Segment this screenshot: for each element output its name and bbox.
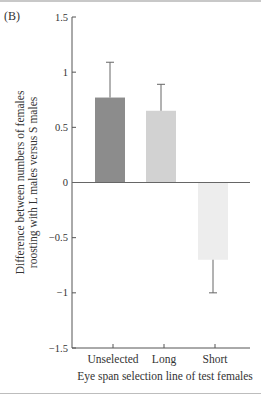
x-axis-label: Eye span selection line of test females [77,370,253,383]
bar-unselected [95,98,125,183]
y-axis: 1.510.50−0.5−1−1.5 [49,12,76,354]
x-tick-label: Unselected [87,353,138,365]
y-axis-label-line-2: roosting with L males versus S males [27,96,40,268]
y-tick-label: 1 [63,67,68,78]
y-axis-label-line-1: Difference between numbers of females [14,90,26,274]
panel-label: (B) [4,9,20,23]
y-tick-label: 0.5 [55,122,68,133]
bar-long [146,111,176,183]
y-tick-label: −1 [57,287,68,298]
y-tick-label: 1.5 [55,12,68,23]
y-tick-label: −1.5 [49,343,68,354]
bar-chart: (B) Difference between numbers of female… [0,0,261,401]
y-tick-label: −0.5 [49,232,68,243]
x-axis: UnselectedLongShort [72,344,250,366]
y-tick-label: 0 [63,177,68,188]
bar-short [198,183,228,260]
bars [72,62,250,293]
x-tick-label: Long [152,353,177,366]
x-tick-label: Short [203,353,229,365]
y-axis-label: Difference between numbers of females ro… [14,90,40,274]
